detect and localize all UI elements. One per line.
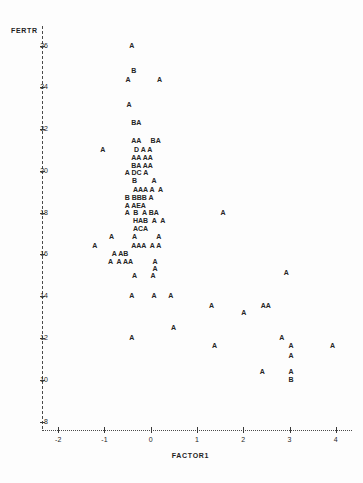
data-point-glyph: A [152,177,157,184]
y-tick-mark [40,380,45,381]
data-point-glyph: A [152,258,157,265]
y-tick-mark [40,254,45,255]
x-tick-label: 3 [278,436,302,443]
scatter-plot-canvas: FERTR 2624222018161412108-2-101234 ABAAA… [0,0,363,483]
data-point-glyph: A [260,368,265,375]
data-point-glyph: A [157,76,162,83]
data-point-glyph: A [132,233,137,240]
x-tick-label: 1 [185,436,209,443]
data-point-glyph: A [288,352,293,359]
data-point-glyph: A [127,101,132,108]
data-point-glyph: BA [131,119,141,126]
data-point-glyph: AA [261,302,271,309]
y-tick-mark [40,87,45,88]
y-tick-mark [40,422,45,423]
y-tick-mark [40,296,45,297]
data-point-glyph: A [212,342,217,349]
data-point-glyph: A [92,242,97,249]
data-point-glyph: A [151,272,156,279]
data-point-glyph: AA AA [131,154,153,161]
x-tick-mark [290,427,291,433]
x-tick-mark [58,427,59,433]
data-point-glyph: A [288,368,293,375]
data-point-glyph: A [109,233,114,240]
data-point-glyph: B [132,177,137,184]
data-point-glyph: A [152,265,157,272]
data-point-glyph: A [220,209,225,216]
data-point-glyph: A [129,42,134,49]
y-tick-mark [40,338,45,339]
data-point-glyph: ACA [133,225,148,232]
x-axis-title: FACTOR1 [0,452,363,459]
x-tick-mark [104,427,105,433]
x-tick-label: -1 [92,436,116,443]
data-point-glyph: A [100,146,105,153]
x-tick-label: -2 [46,436,70,443]
data-point-glyph: A [152,292,157,299]
data-point-glyph: A [279,334,284,341]
data-point-glyph: A [171,324,176,331]
data-point-glyph: A [209,302,214,309]
data-point-glyph: A [241,309,246,316]
y-tick-mark [40,129,45,130]
data-point-glyph: A [129,292,134,299]
data-point-glyph: D A A [134,146,152,153]
data-point-glyph: A [129,334,134,341]
y-tick-mark [40,213,45,214]
data-point-glyph: B [288,376,293,383]
x-tick-mark [151,427,152,433]
data-point-glyph: A [156,233,161,240]
data-point-glyph: A B A BA [125,209,159,216]
data-point-glyph: A [132,272,137,279]
x-tick-mark [243,427,244,433]
data-point-glyph: AA [131,137,141,144]
data-point-glyph: A AEA [125,202,146,209]
data-point-glyph: AAA A A [131,242,161,249]
data-point-glyph: A DC A [125,169,149,176]
data-point-glyph: A [288,342,293,349]
data-point-glyph: A A AA [108,258,133,265]
x-tick-label: 0 [139,436,163,443]
y-tick-mark [40,171,45,172]
y-tick-mark [40,46,45,47]
data-point-glyph: BA [151,137,161,144]
data-point-glyph: A [126,76,131,83]
x-tick-label: 2 [231,436,255,443]
data-point-glyph: B BBB A [125,194,154,201]
data-point-glyph: B [131,67,136,74]
x-tick-mark [197,427,198,433]
data-point-glyph: A AB [112,250,129,257]
data-point-glyph: A [330,342,335,349]
data-point-glyph: HAB A A [133,217,165,224]
x-tick-mark [336,427,337,433]
data-point-glyph: A [284,269,289,276]
y-axis-title: FERTR [11,27,38,34]
x-tick-label: 4 [324,436,348,443]
data-point-glyph: AAA A A [133,186,163,193]
data-point-glyph: A [168,292,173,299]
